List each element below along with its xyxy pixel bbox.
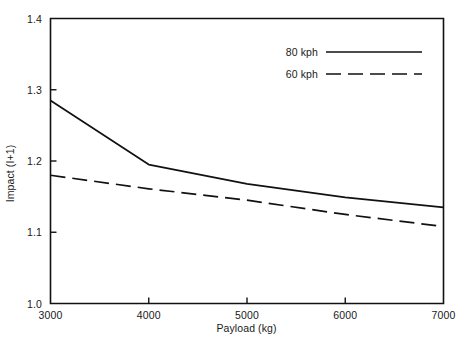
- x-tick-label: 7000: [416, 309, 469, 321]
- x-tick-label: 6000: [317, 309, 373, 321]
- legend-label-60-kph: 60 kph: [254, 68, 318, 80]
- x-tick-label: 5000: [219, 309, 275, 321]
- y-tick-label: 1.1: [12, 226, 42, 238]
- legend-label-80-kph: 80 kph: [254, 46, 318, 58]
- x-tick-label: 4000: [121, 309, 177, 321]
- legend-swatches: [326, 52, 422, 74]
- axis-ticks: [51, 90, 346, 304]
- plot-area: [0, 0, 469, 347]
- data-series: [51, 100, 444, 226]
- x-axis-title: Payload (kg): [50, 322, 443, 334]
- axis-frame: [51, 19, 444, 304]
- axes: [51, 19, 444, 304]
- x-tick-label: 3000: [23, 309, 79, 321]
- series-line-80-kph: [51, 100, 444, 207]
- y-tick-label: 1.2: [12, 155, 42, 167]
- y-tick-label: 1.3: [12, 84, 42, 96]
- chart-figure: Impact (I+1) Payload (kg) 1.01.11.21.31.…: [0, 0, 469, 347]
- y-tick-label: 1.4: [12, 13, 42, 25]
